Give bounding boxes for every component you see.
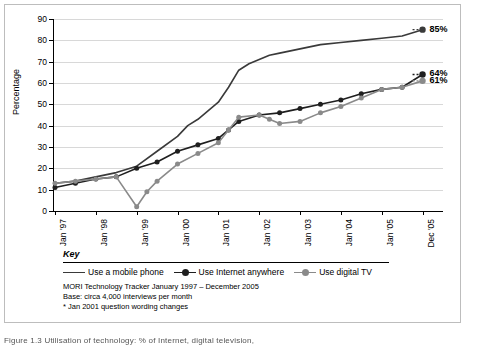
y-tick-label: 60	[38, 79, 47, 88]
series-marker	[277, 121, 282, 126]
x-tick-label: Dec '05	[427, 219, 436, 248]
legend-label: Use a mobile phone	[88, 267, 164, 277]
x-tick-label: Jan '97	[59, 219, 68, 246]
x-tick-label: Jan '00	[182, 219, 191, 246]
series-marker	[298, 106, 303, 111]
series-marker	[73, 179, 78, 184]
y-tick-label: 70	[38, 57, 47, 66]
key-divider	[63, 262, 389, 263]
chart-frame: Percentage 0102030405060708090 Jan '97Ja…	[4, 4, 461, 323]
key-note-1: Base: circa 4,000 interviews per month	[63, 292, 393, 302]
legend-label: Use digital TV	[319, 267, 372, 277]
series-end-label: 85%	[430, 24, 448, 34]
series-marker	[318, 110, 323, 115]
series-marker	[298, 119, 303, 124]
series-marker	[257, 113, 262, 118]
legend: Use a mobile phoneUse Internet anywhereU…	[63, 267, 393, 277]
y-axis-label: Percentage	[11, 69, 21, 115]
series-marker	[134, 166, 139, 171]
figure: Percentage 0102030405060708090 Jan '97Ja…	[0, 0, 479, 353]
series-marker	[195, 142, 200, 147]
series-marker	[236, 115, 241, 120]
y-tick-label: 40	[38, 121, 47, 130]
series-marker	[277, 110, 282, 115]
figure-caption: Figure 1.3 Utilisation of technology: % …	[4, 336, 254, 345]
series-end-marker	[419, 26, 425, 32]
key-title: Key	[63, 249, 393, 259]
series-marker	[144, 189, 149, 194]
series-end-label: 61%	[430, 75, 448, 85]
series-marker	[175, 149, 180, 154]
series-end-marker	[419, 71, 425, 77]
series-marker	[93, 177, 98, 182]
legend-swatch	[294, 268, 316, 277]
series-marker	[318, 102, 323, 107]
x-axis-line	[53, 211, 443, 212]
series-marker	[400, 85, 405, 90]
series-marker	[53, 181, 58, 186]
legend-swatch	[174, 268, 196, 277]
y-tick-label: 20	[38, 164, 47, 173]
series-line	[55, 81, 423, 207]
series-end-marker	[419, 78, 425, 84]
y-tick-label: 10	[38, 185, 47, 194]
x-tick-label: Jan '05	[386, 219, 395, 246]
legend-swatch	[63, 268, 85, 277]
x-tick-label: Jan '03	[304, 219, 313, 246]
legend-item: Use Internet anywhere	[174, 267, 285, 277]
series-marker	[175, 162, 180, 167]
series-line	[55, 30, 423, 184]
x-tick-label: Jan '99	[141, 219, 150, 246]
series-marker	[155, 159, 160, 164]
series-marker	[155, 179, 160, 184]
key-note-2: * Jan 2001 question wording changes	[63, 302, 393, 312]
legend-label: Use Internet anywhere	[199, 267, 285, 277]
y-tick-label: 50	[38, 100, 47, 109]
x-tick-label: Jan '02	[263, 219, 272, 246]
series-marker	[226, 127, 231, 132]
series-marker	[195, 151, 200, 156]
key-block: Key Use a mobile phoneUse Internet anywh…	[63, 249, 393, 312]
series-marker	[359, 95, 364, 100]
x-tick-label: Jan '04	[345, 219, 354, 246]
series-marker	[114, 174, 119, 179]
legend-item: Use a mobile phone	[63, 267, 164, 277]
series-layer	[53, 19, 443, 211]
series-marker	[216, 140, 221, 145]
key-note-0: MORI Technology Tracker January 1997 – D…	[63, 282, 393, 292]
x-tick-label: Jan '98	[100, 219, 109, 246]
y-tick-label: 80	[38, 36, 47, 45]
y-tick-label: 0	[42, 207, 47, 216]
series-marker	[267, 117, 272, 122]
series-line	[55, 74, 423, 187]
plot-area: 0102030405060708090 Jan '97Jan '98Jan '9…	[53, 19, 443, 211]
series-marker	[134, 204, 139, 209]
series-marker	[53, 185, 58, 190]
series-marker	[338, 104, 343, 109]
series-marker	[338, 98, 343, 103]
series-marker	[359, 91, 364, 96]
y-tick-label: 90	[38, 15, 47, 24]
x-tick-label: Jan '01	[222, 219, 231, 246]
legend-item: Use digital TV	[294, 267, 372, 277]
y-tick-label: 30	[38, 143, 47, 152]
series-marker	[379, 87, 384, 92]
